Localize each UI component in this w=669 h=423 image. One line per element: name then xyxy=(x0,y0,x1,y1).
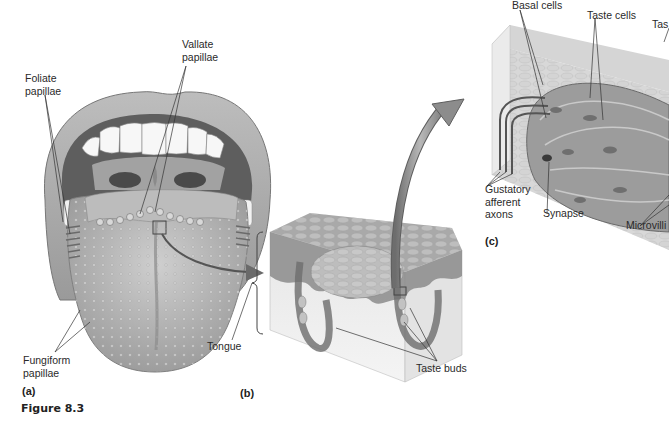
figure-caption: Figure 8.3 xyxy=(21,402,84,415)
synapse-marker xyxy=(542,155,552,162)
panel-label-b: (b) xyxy=(240,387,254,399)
label-line: Gustatory xyxy=(485,183,531,196)
papilla-block-illustration xyxy=(232,213,462,382)
label-line: papillae xyxy=(182,51,218,64)
label-basal-cells: Basal cells xyxy=(512,0,562,12)
label-taste-pore-partial: Tas xyxy=(652,18,668,31)
label-synapse: Synapse xyxy=(543,207,584,220)
label-line: papillae xyxy=(25,85,61,98)
label-taste-cells: Taste cells xyxy=(587,9,636,22)
label-taste-buds: Taste buds xyxy=(416,362,467,375)
label-microvilli: Microvilli xyxy=(626,219,666,232)
label-line: afferent xyxy=(485,196,531,209)
label-vallate-papillae: Vallate papillae xyxy=(182,38,218,63)
label-tongue: Tongue xyxy=(207,340,241,353)
label-line: Vallate xyxy=(182,38,218,51)
label-fungiform-papillae: Fungiform papillae xyxy=(23,354,70,379)
label-line: papillae xyxy=(23,367,70,380)
label-foliate-papillae: Foliate papillae xyxy=(25,72,61,97)
label-line: axons xyxy=(485,208,531,221)
label-line: Foliate xyxy=(25,72,61,85)
label-gustatory-afferent-axons: Gustatory afferent axons xyxy=(485,183,531,221)
panel-label-c: (c) xyxy=(485,235,498,247)
label-line: Fungiform xyxy=(23,354,70,367)
panel-label-a: (a) xyxy=(22,385,35,397)
